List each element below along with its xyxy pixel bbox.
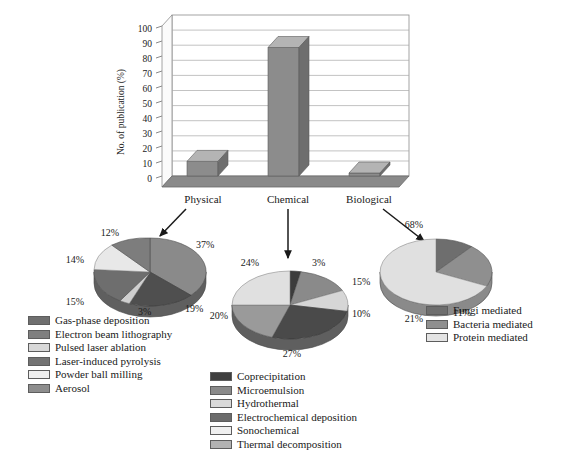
pie-chart-physical: 37% 19% 3% 15% 14% 12% bbox=[66, 227, 215, 317]
legend-item: Microemulsion bbox=[210, 384, 357, 398]
figure-canvas: No. of publication (%) 100 90 80 70 60 5… bbox=[0, 0, 567, 462]
y-tick-90: 90 bbox=[143, 39, 153, 49]
legend-label-protein-mediated: Protein mediated bbox=[453, 332, 528, 343]
pie-chemical-slice-thermal-decomposition bbox=[232, 271, 290, 305]
legend-label-hydrothermal: Hydrothermal bbox=[237, 398, 299, 409]
pie-chemical-value-15: 15% bbox=[352, 276, 370, 287]
legend-label-fungi-mediated: Fungi mediated bbox=[453, 305, 522, 316]
pie-physical-value-15: 15% bbox=[66, 296, 84, 307]
pie-physical-value-37: 37% bbox=[196, 239, 214, 250]
legend-swatch-aerosol bbox=[28, 384, 50, 393]
legend-swatch-laser-induced-pyrolysis bbox=[28, 357, 50, 366]
legend-item: Laser-induced pyrolysis bbox=[28, 355, 172, 369]
legend-label-gas-phase-deposition: Gas-phase deposition bbox=[55, 315, 149, 326]
legend-item: Coprecipitation bbox=[210, 370, 357, 384]
legend-label-microemulsion: Microemulsion bbox=[237, 385, 304, 396]
legend-item: Powder ball milling bbox=[28, 368, 172, 382]
y-tick-100: 100 bbox=[138, 24, 153, 34]
legend-label-bacteria-mediated: Bacteria mediated bbox=[453, 319, 533, 330]
plot-left-wall bbox=[162, 15, 172, 187]
legend-swatch-electrochemical-deposition bbox=[210, 413, 232, 422]
legend-label-electron-beam-lithography: Electron beam lithography bbox=[55, 329, 172, 340]
category-label-chemical: Chemical bbox=[267, 193, 309, 205]
pie-chemical-value-27: 27% bbox=[283, 348, 301, 359]
legend-physical: Gas-phase deposition Electron beam litho… bbox=[28, 314, 172, 395]
legend-swatch-fungi-mediated bbox=[426, 306, 448, 315]
legend-swatch-thermal-decomposition bbox=[210, 440, 232, 449]
legend-swatch-gas-phase-deposition bbox=[28, 316, 50, 325]
y-tick-0: 0 bbox=[147, 174, 152, 184]
legend-item: Thermal decomposition bbox=[210, 438, 357, 452]
pie-chemical-value-3: 3% bbox=[312, 257, 325, 268]
bar-chart-tick-marks bbox=[156, 26, 162, 178]
pie-biological-value-21: 21% bbox=[405, 313, 423, 324]
legend-biological: Fungi mediated Bacteria mediated Protein… bbox=[426, 304, 533, 345]
legend-swatch-microemulsion bbox=[210, 386, 232, 395]
bar-chart: No. of publication (%) 100 90 80 70 60 5… bbox=[116, 15, 409, 205]
legend-item: Aerosol bbox=[28, 382, 172, 396]
legend-item: Bacteria mediated bbox=[426, 318, 533, 332]
plot-floor bbox=[162, 176, 409, 187]
legend-item: Electron beam lithography bbox=[28, 328, 172, 342]
legend-label-powder-ball-milling: Powder ball milling bbox=[55, 369, 142, 380]
y-tick-20: 20 bbox=[143, 144, 153, 154]
legend-label-thermal-decomposition: Thermal decomposition bbox=[237, 439, 342, 450]
pie-physical-value-19: 19% bbox=[185, 303, 203, 314]
y-tick-80: 80 bbox=[143, 54, 153, 64]
legend-swatch-protein-mediated bbox=[426, 333, 448, 342]
bar-chart-y-axis-title: No. of publication (%) bbox=[116, 69, 127, 155]
legend-label-pulsed-laser-ablation: Pulsed laser ablation bbox=[55, 342, 146, 353]
legend-item: Sonochemical bbox=[210, 424, 357, 438]
pie-chemical-value-24: 24% bbox=[241, 257, 259, 268]
bar-chart-y-ticks: 100 90 80 70 60 50 40 30 20 10 0 bbox=[138, 24, 153, 184]
legend-swatch-bacteria-mediated bbox=[426, 320, 448, 329]
arrow-to-physical-pie bbox=[160, 209, 186, 236]
connector-arrows bbox=[160, 209, 424, 258]
legend-label-electrochemical-deposition: Electrochemical deposition bbox=[237, 412, 357, 423]
legend-item: Fungi mediated bbox=[426, 304, 533, 318]
legend-swatch-electron-beam-lithography bbox=[28, 330, 50, 339]
y-tick-50: 50 bbox=[143, 99, 153, 109]
legend-item: Hydrothermal bbox=[210, 397, 357, 411]
pie-chart-chemical: 3% 15% 10% 27% 20% 24% bbox=[210, 257, 371, 359]
legend-swatch-coprecipitation bbox=[210, 372, 232, 381]
pie-chemical-value-20: 20% bbox=[210, 310, 228, 321]
y-tick-40: 40 bbox=[143, 114, 153, 124]
y-tick-10: 10 bbox=[143, 159, 153, 169]
legend-item: Protein mediated bbox=[426, 331, 533, 345]
legend-label-sonochemical: Sonochemical bbox=[237, 425, 299, 436]
legend-item: Pulsed laser ablation bbox=[28, 341, 172, 355]
legend-swatch-sonochemical bbox=[210, 426, 232, 435]
legend-swatch-powder-ball-milling bbox=[28, 370, 50, 379]
legend-chemical: Coprecipitation Microemulsion Hydrotherm… bbox=[210, 370, 357, 451]
legend-label-aerosol: Aerosol bbox=[55, 383, 90, 394]
pie-biological-value-68: 68% bbox=[405, 219, 423, 230]
category-label-biological: Biological bbox=[346, 193, 392, 205]
legend-label-coprecipitation: Coprecipitation bbox=[237, 371, 305, 382]
legend-swatch-hydrothermal bbox=[210, 399, 232, 408]
bar-physical bbox=[187, 150, 228, 176]
y-tick-60: 60 bbox=[143, 84, 153, 94]
y-tick-70: 70 bbox=[143, 69, 153, 79]
category-label-physical: Physical bbox=[184, 193, 221, 205]
legend-swatch-pulsed-laser-ablation bbox=[28, 343, 50, 352]
pie-physical-value-14: 14% bbox=[66, 254, 84, 265]
pie-chemical-value-10: 10% bbox=[352, 308, 370, 319]
legend-item: Electrochemical deposition bbox=[210, 411, 357, 425]
legend-label-laser-induced-pyrolysis: Laser-induced pyrolysis bbox=[55, 356, 161, 367]
bar-chemical bbox=[268, 37, 309, 177]
pie-physical-value-12: 12% bbox=[101, 227, 119, 238]
legend-item: Gas-phase deposition bbox=[28, 314, 172, 328]
y-tick-30: 30 bbox=[143, 129, 153, 139]
